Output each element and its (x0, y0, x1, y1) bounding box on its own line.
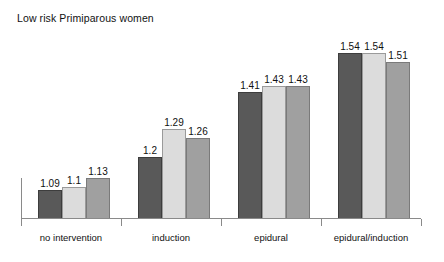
bar-item[interactable]: 1.26 (186, 28, 210, 218)
bar-rect[interactable] (286, 86, 310, 218)
axis-tick (221, 219, 222, 226)
bar-value-label: 1.13 (88, 166, 107, 177)
axis-tick (121, 219, 122, 226)
bar-value-label: 1.51 (388, 50, 407, 61)
x-axis-label-epidural: epidural (254, 232, 288, 244)
bar-item[interactable]: 1.54 (362, 28, 386, 218)
bar-item[interactable]: 1.43 (262, 28, 286, 218)
bar-value-label: 1.43 (264, 74, 283, 85)
x-axis-label-induction: induction (152, 232, 190, 244)
bar-item[interactable]: 1.43 (286, 28, 310, 218)
bar-rect[interactable] (86, 178, 110, 218)
bar-group: 1.09 1.1 1.13 (38, 28, 110, 218)
bar-rect[interactable] (186, 138, 210, 218)
bar-group: 1.2 1.29 1.26 (138, 28, 210, 218)
bar-item[interactable]: 1.1 (62, 28, 86, 218)
bar-value-label: 1.43 (288, 74, 307, 85)
bar-value-label: 1.54 (340, 41, 359, 52)
bar-rect[interactable] (262, 86, 286, 218)
bar-chart: Low risk Primiparous women 1.09 1.1 1.13 (0, 0, 444, 262)
bar-rect[interactable] (162, 129, 186, 218)
y-axis-line (21, 178, 22, 219)
bar-group: 1.41 1.43 1.43 (238, 28, 310, 218)
bar-rect[interactable] (138, 157, 162, 218)
bar-item[interactable]: 1.09 (38, 28, 62, 218)
bar-item[interactable]: 1.2 (138, 28, 162, 218)
bar-value-label: 1.2 (143, 145, 157, 156)
bar-item[interactable]: 1.29 (162, 28, 186, 218)
bar-value-label: 1.09 (40, 178, 59, 189)
bar-rect[interactable] (362, 53, 386, 219)
axis-tick (21, 219, 22, 226)
axis-tick (321, 219, 322, 226)
bar-value-label: 1.26 (188, 126, 207, 137)
bar-rect[interactable] (238, 92, 262, 218)
bar-item[interactable]: 1.54 (338, 28, 362, 218)
bar-value-label: 1.1 (67, 175, 81, 186)
x-axis-label-epidural-induction: epidural/induction (334, 232, 408, 244)
bar-rect[interactable] (62, 187, 86, 218)
x-axis-label-no-intervention: no intervention (40, 232, 102, 244)
bar-item[interactable]: 1.13 (86, 28, 110, 218)
bar-value-label: 1.54 (364, 41, 383, 52)
axis-tick (421, 219, 422, 226)
bar-rect[interactable] (386, 62, 410, 218)
bar-item[interactable]: 1.51 (386, 28, 410, 218)
bar-value-label: 1.41 (240, 80, 259, 91)
bar-rect[interactable] (338, 53, 362, 219)
bar-group: 1.54 1.54 1.51 (338, 28, 410, 218)
plot-area: 1.09 1.1 1.13 1.2 1.29 1.26 (0, 0, 444, 262)
bar-value-label: 1.29 (164, 117, 183, 128)
bar-item[interactable]: 1.41 (238, 28, 262, 218)
bar-rect[interactable] (38, 190, 62, 218)
